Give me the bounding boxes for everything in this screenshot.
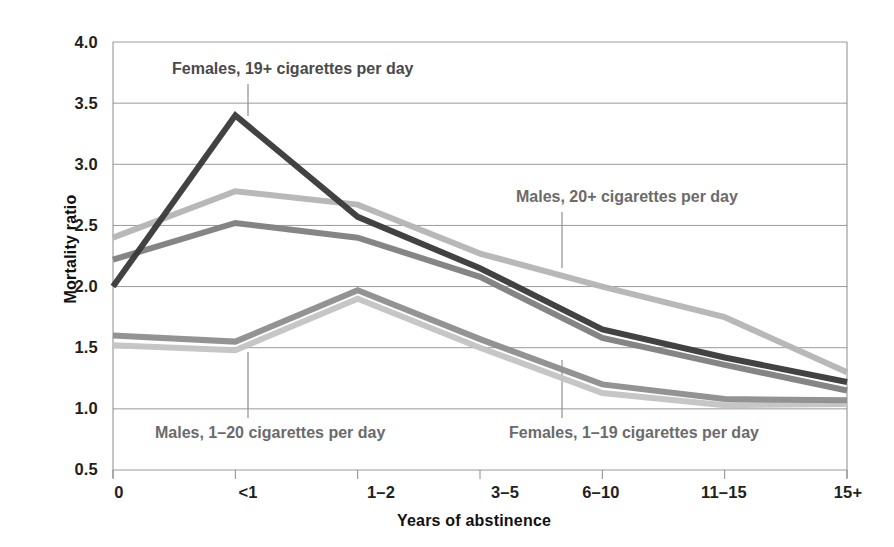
series-annotation-label: Females, 1–19 cigarettes per day: [509, 424, 759, 442]
y-tick-label: 1.5: [38, 338, 98, 357]
series-annotation-label: Males, 20+ cigarettes per day: [516, 188, 738, 206]
series-annotation-label: Males, 1–20 cigarettes per day: [155, 424, 385, 442]
y-tick-label: 1.0: [38, 399, 98, 418]
y-tick-label: 3.0: [38, 155, 98, 174]
y-tick-label: 0.5: [38, 460, 98, 479]
x-tick-label: 11–15: [684, 483, 764, 502]
y-tick-label: 2.5: [38, 216, 98, 235]
x-tick-label: 1–2: [341, 483, 421, 502]
x-tick-marks: [113, 470, 847, 479]
y-tick-label: 3.5: [38, 94, 98, 113]
series-annotation-label: Females, 19+ cigarettes per day: [172, 60, 413, 78]
x-axis-title: Years of abstinence: [397, 512, 551, 530]
line-chart-plot: [0, 0, 894, 547]
x-tick-label: <1: [208, 483, 288, 502]
series-line: [113, 223, 847, 391]
y-tick-label: 2.0: [38, 277, 98, 296]
x-tick-label: 3–5: [465, 483, 545, 502]
x-tick-label: 0: [79, 483, 159, 502]
x-tick-label: 15+: [808, 483, 888, 502]
data-series-group: [113, 115, 847, 405]
chart-figure: Mortality ratio Years of abstinence 4.03…: [0, 0, 894, 547]
y-tick-label: 4.0: [38, 33, 98, 52]
y-axis-title: Mortality ratio: [62, 169, 80, 329]
series-line: [113, 299, 847, 405]
axis-lines: [113, 42, 847, 478]
x-tick-label: 6–10: [561, 483, 641, 502]
